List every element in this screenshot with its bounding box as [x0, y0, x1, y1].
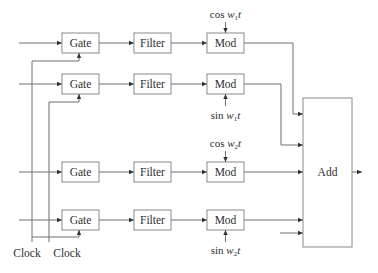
- gate-label-2: Gate: [70, 78, 92, 90]
- carrier-label-3: cos w2t: [210, 137, 242, 151]
- gate-label-3: Gate: [70, 166, 92, 178]
- adder: Add: [303, 98, 362, 247]
- gate-label-1: Gate: [70, 37, 92, 49]
- mod-label-2: Mod: [215, 78, 237, 90]
- add-label: Add: [318, 166, 338, 178]
- carrier-label-4: sin w2t: [211, 244, 241, 258]
- channel-3: Gate Filter Mod cos w2t: [19, 137, 303, 182]
- clock-2-to-gate-2: [49, 94, 79, 102]
- mod-label-1: Mod: [215, 37, 237, 49]
- mod-label-4: Mod: [215, 214, 237, 226]
- clock-1-to-gate-1: [32, 53, 79, 61]
- channel-2: Gate Filter Mod sin w1t: [19, 74, 303, 145]
- filter-label-1: Filter: [140, 37, 165, 49]
- mod-to-add-wire-1: [244, 43, 303, 114]
- carrier-label-2: sin w1t: [211, 109, 241, 123]
- clock-2-label: Clock: [53, 247, 81, 259]
- clock-1-label: Clock: [13, 247, 41, 259]
- mod-label-3: Mod: [215, 166, 237, 178]
- carrier-label-1: cos w1t: [210, 8, 242, 22]
- block-diagram: Gate Filter Mod cos w1t Gate Filter Mod …: [0, 0, 378, 273]
- filter-label-3: Filter: [140, 166, 165, 178]
- filter-label-4: Filter: [140, 214, 165, 226]
- clock-1-to-gate-4: [32, 230, 79, 237]
- filter-label-2: Filter: [140, 78, 165, 90]
- gate-label-4: Gate: [70, 214, 92, 226]
